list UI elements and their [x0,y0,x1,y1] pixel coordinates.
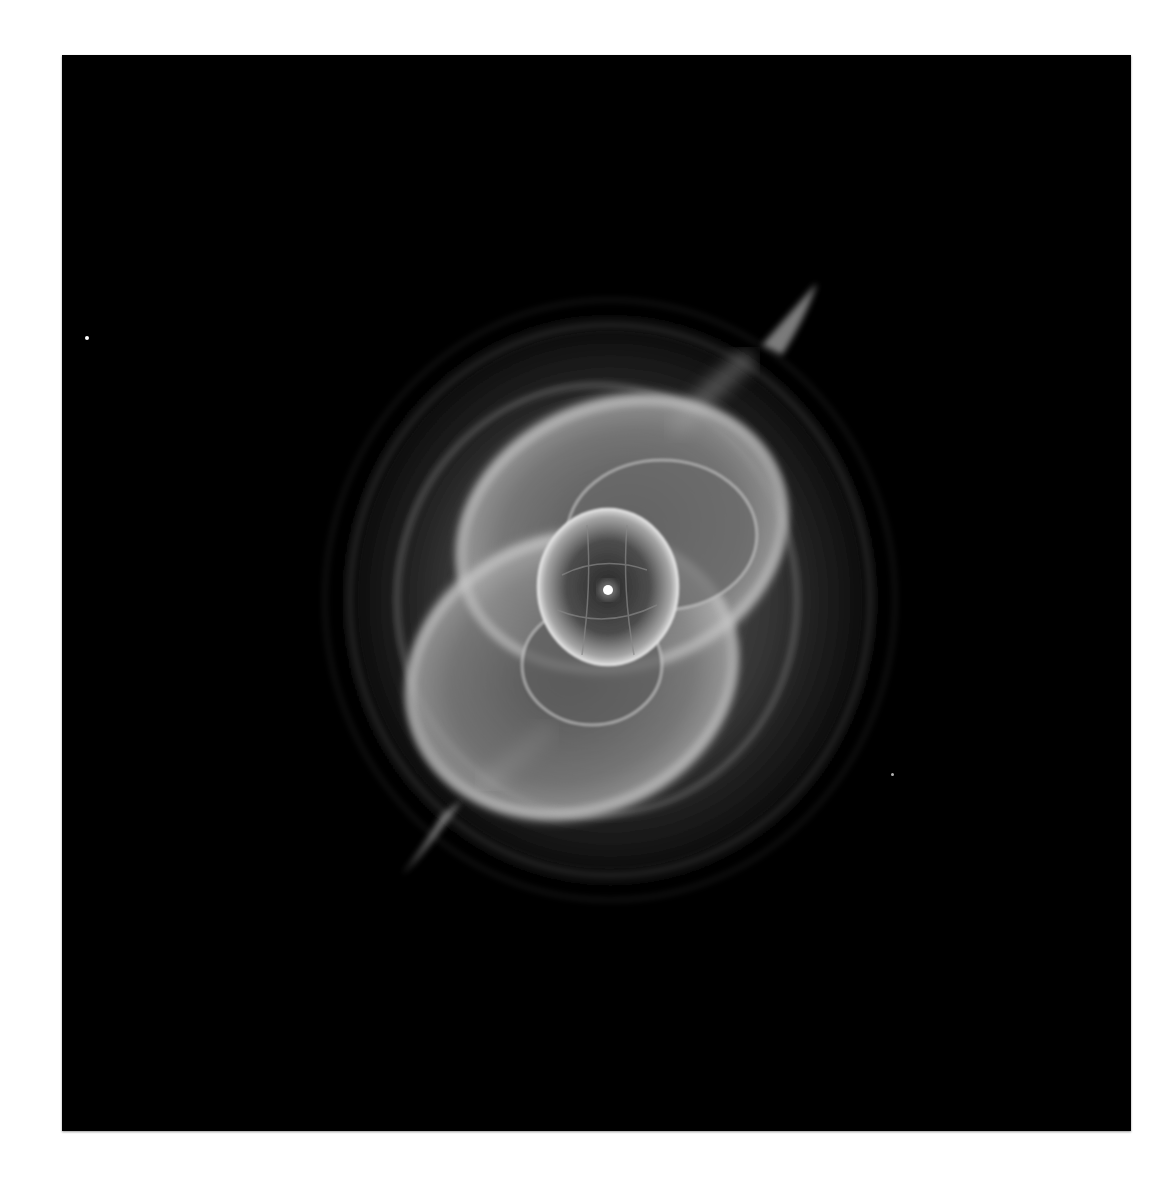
field-star [85,336,89,340]
nebula-illustration [62,55,1131,1131]
nebula-photo [62,55,1131,1131]
field-star [891,773,894,776]
